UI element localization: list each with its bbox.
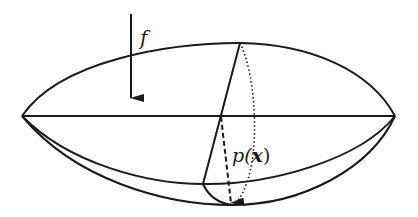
displacement-label: p(x)	[232, 144, 270, 166]
displacement-close: )	[263, 144, 270, 166]
solid-meridian	[203, 43, 240, 205]
upper-arc	[22, 43, 395, 116]
displacement-var: x	[251, 144, 264, 166]
ellipsoid-diagram: f p(x)	[0, 0, 418, 217]
displacement-arrow	[221, 117, 231, 203]
displacement-func: p(	[232, 144, 252, 166]
force-label: f	[138, 26, 151, 50]
inner-lower-arc	[22, 116, 395, 184]
